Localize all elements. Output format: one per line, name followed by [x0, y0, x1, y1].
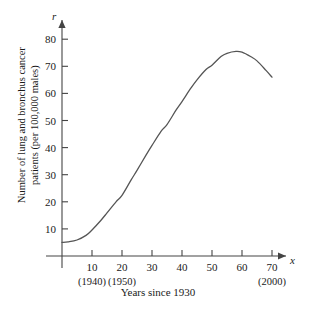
- x-axis-ticks: [92, 250, 272, 256]
- axes-group: [46, 20, 286, 268]
- x-tick-label: 70: [267, 262, 278, 273]
- chart-figure: r x 1020304050607080 10203040506070 (194…: [0, 0, 316, 310]
- x-tick-label: 10: [87, 262, 98, 273]
- data-curve-lung-bronchus-cancer: [62, 51, 272, 242]
- y-axis-ticks: [62, 39, 68, 229]
- x-axis-arrowhead: [278, 252, 286, 259]
- y-axis-arrowhead: [58, 20, 65, 28]
- y-axis-title-line-1: Number of lung and bronchus cancer: [15, 47, 28, 203]
- x-tick-label: 50: [207, 262, 218, 273]
- x-tick-label: 20: [117, 262, 128, 273]
- y-axis-title-wrapper: Number of lung and bronchus cancer patie…: [6, 0, 50, 250]
- y-axis-variable-label: r: [52, 10, 56, 22]
- x-tick-label: 60: [237, 262, 248, 273]
- y-axis-title: Number of lung and bronchus cancer patie…: [15, 47, 41, 203]
- x-tick-label: 40: [177, 262, 188, 273]
- x-axis-title: Years since 1930: [0, 286, 316, 298]
- y-axis-title-line-2: patients (per 100,000 males): [28, 47, 41, 203]
- x-tick-label: 30: [147, 262, 158, 273]
- x-axis-variable-label: x: [290, 254, 295, 266]
